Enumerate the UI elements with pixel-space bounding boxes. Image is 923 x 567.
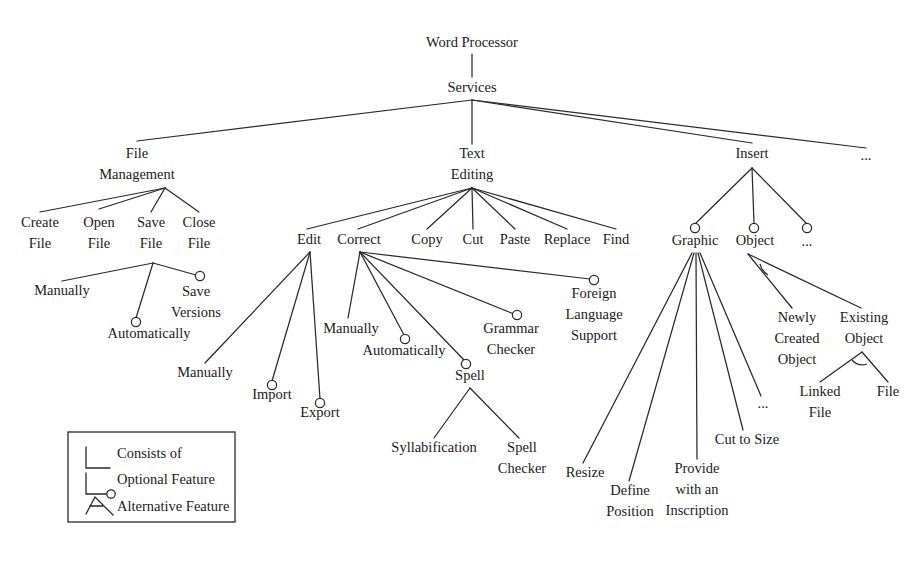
node-provide-inscription-line2: with an	[675, 481, 719, 497]
edge-te-edit	[307, 188, 472, 229]
edge-group-existing-object	[820, 352, 888, 382]
edge-graphic-cut-to-size	[698, 253, 743, 430]
node-correct: Correct	[337, 231, 380, 247]
edge-graphic-provide-inscription	[696, 253, 697, 459]
node-graphic-ellipsis: ...	[758, 395, 769, 411]
alternative-arc-existing-object	[852, 360, 867, 365]
node-paste: Paste	[500, 231, 531, 247]
node-file-management-line2: Management	[99, 166, 175, 182]
node-text-editing-line2: Editing	[451, 166, 494, 182]
node-grammar-checker-line1: Grammar	[483, 320, 539, 336]
node-object: Object	[736, 232, 775, 248]
edge-correct-manually	[348, 252, 360, 318]
node-linked-file-line1: Linked	[799, 383, 841, 399]
node-open-file-line2: File	[88, 235, 111, 251]
edge-graphic-more	[700, 253, 761, 396]
node-edit-import: Import	[252, 386, 291, 402]
node-services: Services	[447, 79, 496, 95]
node-correct-manually: Manually	[323, 320, 379, 336]
legend-label-consists-of: Consists of	[117, 445, 182, 461]
edge-spell-syllabification	[434, 388, 470, 438]
optional-feature-icon	[86, 473, 107, 494]
edge-group-services	[137, 100, 866, 148]
edge-existing-file	[862, 352, 888, 382]
edge-group-insert	[690, 168, 811, 233]
edge-edit-export	[310, 252, 320, 399]
edge-te-replace	[472, 188, 567, 229]
node-services-ellipsis: ...	[861, 147, 872, 163]
edge-insert-more	[752, 168, 806, 223]
node-insert-ellipsis: ...	[802, 233, 813, 249]
node-text-editing-line1: Text	[459, 145, 485, 161]
node-word-processor: Word Processor	[426, 34, 518, 50]
node-grammar-checker-line2: Checker	[487, 341, 535, 357]
node-find: Find	[603, 231, 630, 247]
node-edit-export: Export	[300, 404, 339, 420]
legend-item-alternative-feature: Alternative Feature	[86, 497, 229, 515]
optional-circle-grammar-checker	[512, 310, 521, 319]
edge-spell-spell-checker	[470, 388, 519, 438]
node-foreign-language-line1: Foreign	[571, 285, 617, 301]
node-close-file-line2: File	[188, 235, 211, 251]
node-save-versions-line2: Versions	[171, 304, 221, 320]
node-newly-created-object-line3: Object	[778, 351, 817, 367]
edge-existing-linked-file	[820, 352, 862, 382]
node-close-file-line1: Close	[182, 214, 215, 230]
node-save-file-line2: File	[140, 235, 163, 251]
node-edit-manually: Manually	[177, 364, 233, 380]
edge-services-more	[472, 100, 866, 148]
node-provide-inscription-line3: Inscription	[666, 502, 730, 518]
legend-item-consists-of: Consists of	[86, 445, 182, 468]
node-foreign-language-line3: Support	[571, 327, 617, 343]
edge-savefile-manually	[62, 263, 153, 281]
legend-label-alternative-feature: Alternative Feature	[117, 498, 229, 514]
node-graphic: Graphic	[672, 232, 719, 248]
optional-circle-insert-more	[802, 223, 811, 232]
node-define-position-line2: Position	[606, 503, 654, 519]
feature-diagram: Word Processor Services File Management …	[0, 0, 923, 567]
node-define-position-line1: Define	[610, 482, 649, 498]
edge-services-file-management	[137, 100, 472, 141]
node-newly-created-object-line1: Newly	[778, 309, 817, 325]
legend-item-optional-feature: Optional Feature	[86, 471, 215, 498]
optional-feature-circle-icon	[107, 490, 115, 498]
node-create-file-line2: File	[29, 235, 52, 251]
consists-of-icon	[86, 447, 110, 468]
node-save-versions-line1: Save	[182, 283, 210, 299]
edge-insert-graphic	[696, 168, 752, 223]
edge-savefile-save-versions	[153, 263, 196, 275]
node-linked-file-line2: File	[809, 404, 832, 420]
node-correct-automatically: Automatically	[363, 342, 447, 358]
edge-savefile-automatically	[136, 263, 153, 318]
node-spell-checker-line1: Spell	[507, 439, 537, 455]
edge-group-object	[748, 254, 861, 308]
node-syllabification: Syllabification	[391, 439, 477, 455]
edge-services-insert	[472, 100, 752, 143]
node-cut: Cut	[463, 231, 484, 247]
edge-insert-object	[752, 168, 754, 223]
edge-te-correct	[358, 188, 472, 229]
node-existing-object-line2: Object	[845, 330, 884, 346]
edge-object-existing-object	[748, 254, 861, 308]
node-save-automatically: Automatically	[108, 325, 192, 341]
node-open-file-line1: Open	[83, 214, 115, 230]
node-save-manually: Manually	[34, 282, 90, 298]
optional-circle-save-versions	[195, 271, 204, 280]
node-edit: Edit	[297, 231, 321, 247]
node-create-file-line1: Create	[21, 214, 59, 230]
edge-graphic-define-position	[629, 253, 694, 481]
node-insert: Insert	[735, 145, 768, 161]
node-spell-checker-line2: Checker	[498, 460, 546, 476]
node-newly-created-object-line2: Created	[774, 330, 820, 346]
edge-fm-close-file	[165, 188, 199, 212]
node-spell: Spell	[455, 367, 485, 383]
node-provide-inscription-line1: Provide	[674, 460, 719, 476]
node-save-file-line1: Save	[137, 214, 165, 230]
node-existing-object-line1: Existing	[840, 309, 888, 325]
edge-group-file-management	[40, 188, 199, 212]
edge-object-newly-created	[748, 254, 792, 308]
optional-circle-foreign-language	[589, 275, 598, 284]
edge-te-cut	[472, 188, 473, 229]
edge-group-edit	[205, 252, 325, 408]
node-replace: Replace	[544, 231, 591, 247]
